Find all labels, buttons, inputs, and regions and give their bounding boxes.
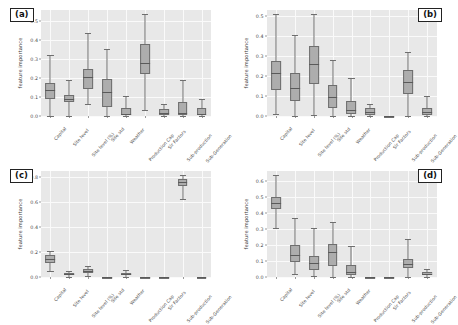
cap-lower [199, 116, 205, 117]
cap-upper [180, 80, 186, 81]
whisker-lower [144, 74, 145, 110]
boxplot-6 [135, 10, 154, 116]
whisker-lower [408, 94, 409, 116]
cap-upper [123, 96, 129, 97]
y-tick-label: 0.6 [30, 200, 38, 205]
median-line [102, 92, 112, 93]
cap-upper [47, 55, 53, 56]
boxplot-1 [41, 171, 60, 277]
median-line [102, 277, 112, 278]
whisker-upper [107, 49, 108, 78]
box-iqr [290, 73, 300, 102]
median-line [271, 203, 281, 204]
median-line [64, 274, 74, 275]
cap-upper [348, 78, 354, 79]
median-line [197, 114, 207, 115]
cap-lower [180, 199, 186, 200]
y-tick-label: 0.2 [30, 250, 38, 255]
whisker-lower [69, 102, 70, 116]
cap-upper [66, 80, 72, 81]
cap-upper [199, 99, 205, 100]
plot-area: 0.00.10.20.30.40.5feature importanceCapi… [41, 10, 211, 116]
box-iqr [271, 61, 281, 90]
cap-upper [424, 96, 430, 97]
cap-lower [123, 116, 129, 117]
whisker-upper [144, 14, 145, 44]
cap-upper [273, 175, 279, 176]
whisker-upper [182, 80, 183, 102]
cap-upper [161, 104, 167, 105]
y-axis-label: feature importance [241, 171, 251, 277]
boxplot-7 [380, 10, 399, 116]
boxplot-8 [173, 171, 192, 277]
x-tick-mark [183, 277, 184, 279]
cap-upper [85, 33, 91, 34]
cap-lower [161, 116, 167, 117]
whisker-upper [313, 14, 314, 46]
cap-lower [348, 116, 354, 117]
whisker-upper [408, 239, 409, 259]
median-line [309, 64, 319, 65]
cap-lower [424, 277, 430, 278]
median-line [46, 90, 56, 91]
cap-lower [405, 116, 411, 117]
median-line [365, 277, 375, 278]
boxplot-9 [418, 171, 437, 277]
boxplot-9 [192, 171, 211, 277]
x-tick-label: Site level [72, 128, 90, 147]
y-tick-label: 0.4 [30, 225, 38, 230]
cap-lower [273, 114, 279, 115]
cap-lower [123, 277, 129, 278]
median-line [178, 182, 188, 183]
y-tick-label: 0.3 [30, 57, 38, 62]
boxplot-6 [135, 171, 154, 277]
y-tick-label: 0.2 [256, 74, 264, 79]
boxplot-2 [285, 10, 304, 116]
whisker-upper [125, 96, 126, 109]
x-tick-label: Site level [72, 289, 90, 308]
median-line [290, 88, 300, 89]
plot-area: 0.00.10.20.30.40.50.6feature importanceC… [267, 171, 437, 277]
boxplot-7 [380, 171, 399, 277]
x-tick-mark [314, 116, 315, 118]
boxplot-6 [361, 10, 380, 116]
boxplot-3 [304, 10, 323, 116]
median-line [159, 113, 169, 114]
y-tick-label: 0.5 [256, 194, 264, 199]
box-iqr [290, 245, 300, 263]
x-tick-label: Weather [354, 288, 371, 306]
cap-lower [66, 116, 72, 117]
boxplot-3 [79, 171, 98, 277]
y-tick-label: 0.4 [30, 38, 38, 43]
whisker-upper [275, 175, 276, 197]
panel-b: 0.00.10.20.30.40.5feature importanceCapi… [226, 0, 452, 161]
box-iqr [347, 265, 357, 276]
cap-upper [405, 52, 411, 53]
y-tick-label: 0.0 [30, 114, 38, 119]
x-tick-label: Site level (%) [91, 131, 115, 157]
boxplot-8 [173, 10, 192, 116]
median-line [290, 255, 300, 256]
box-iqr [83, 69, 93, 89]
x-tick-mark [88, 277, 89, 279]
boxplot-5 [342, 10, 361, 116]
median-line [159, 277, 169, 278]
y-tick-label: 0.0 [256, 275, 264, 280]
x-tick-label: Capital [279, 287, 294, 302]
whisker-upper [69, 80, 70, 95]
cap-lower [424, 116, 430, 117]
cap-upper [292, 218, 298, 219]
cap-upper [348, 246, 354, 247]
median-line [403, 82, 413, 83]
cap-lower [85, 104, 91, 105]
cap-lower [85, 276, 91, 277]
cap-lower [292, 116, 298, 117]
cap-upper [142, 14, 148, 15]
cap-upper [311, 14, 317, 15]
y-tick-label: 0.3 [256, 226, 264, 231]
whisker-lower [332, 266, 333, 277]
cap-lower [104, 116, 110, 117]
median-line [403, 264, 413, 265]
box-iqr [309, 46, 319, 84]
boxplot-2 [60, 10, 79, 116]
